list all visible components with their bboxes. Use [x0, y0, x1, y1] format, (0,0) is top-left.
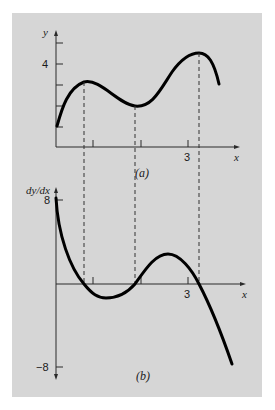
panel-a-label: (a): [135, 166, 149, 180]
y-tick-label-minus8: −8: [36, 361, 49, 373]
x-axis-label-a: x: [233, 151, 239, 163]
x-tick-label-3-a: 3: [184, 151, 190, 163]
x-axis-label-b: x: [241, 288, 247, 300]
y-tick-label-4: 4: [42, 58, 48, 70]
y-axis-label-a: y: [42, 26, 48, 38]
y-tick-label-8: 8: [44, 194, 50, 206]
panel-b-label: (b): [136, 369, 150, 383]
x-tick-label-3-b: 3: [184, 288, 190, 300]
derivative-figure: y 4 3 x (a) dy/dx 8 −8 3 x: [0, 0, 275, 410]
